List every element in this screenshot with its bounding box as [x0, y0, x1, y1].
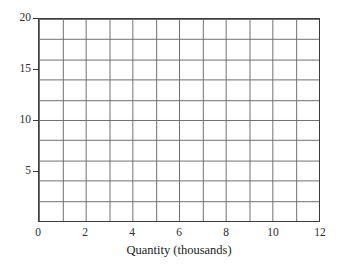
x-tick-label-6: 6 — [176, 227, 182, 239]
y-tick-label-10: 10 — [20, 114, 32, 126]
y-tick-label-5: 5 — [25, 165, 31, 177]
chart-container: 5101520 024681012 Quantity (thousands) — [0, 0, 344, 268]
y-tick-mark-15 — [33, 69, 38, 70]
x-tick-label-4: 4 — [129, 227, 135, 239]
y-tick-mark-20 — [33, 18, 38, 19]
x-tick-label-12: 12 — [314, 227, 326, 239]
x-axis-title: Quantity (thousands) — [38, 243, 320, 258]
y-tick-mark-10 — [33, 120, 38, 121]
gridlines — [39, 19, 319, 221]
x-tick-label-2: 2 — [82, 227, 88, 239]
y-tick-mark-5 — [33, 171, 38, 172]
x-tick-label-10: 10 — [267, 227, 279, 239]
x-tick-label-0: 0 — [35, 227, 41, 239]
x-tick-label-8: 8 — [223, 227, 229, 239]
plot-area — [38, 18, 320, 222]
x-axis-tick-labels: 024681012 — [38, 227, 320, 243]
y-axis-tick-labels: 5101520 — [0, 18, 31, 222]
y-tick-label-20: 20 — [20, 12, 32, 24]
y-tick-label-15: 15 — [20, 63, 32, 75]
